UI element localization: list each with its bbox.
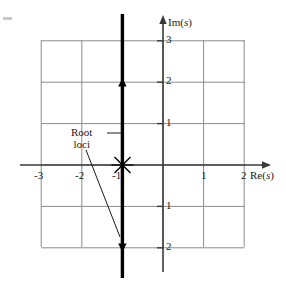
x-tick-label--2: -2 (75, 170, 84, 181)
annotation-root-loci-line1: Root (71, 127, 92, 139)
plot-canvas (0, 0, 286, 292)
y-tick-label-3: 3 (166, 34, 172, 45)
imag-axis-label: Im(s) (168, 17, 192, 28)
real-axis-arrowhead (262, 161, 271, 168)
y-tick-label--2: 2 (166, 241, 172, 252)
root-locus-figure: Im(s) Re(s) -3 -2 -1 1 2 3 2 1 1 2 Root … (0, 0, 286, 292)
axes (20, 15, 271, 272)
y-tick-label--1: 1 (166, 200, 172, 211)
imag-axis-ticks (157, 41, 163, 248)
imag-axis-arrowhead (159, 15, 166, 24)
annotation-leader-root-loci (86, 150, 120, 237)
y-tick-label-2: 2 (166, 75, 172, 86)
y-tick-label-1: 1 (166, 117, 172, 128)
real-axis-label: Re(s) (250, 170, 274, 181)
x-tick-label--1: -1 (112, 170, 121, 181)
x-tick-label-2: 2 (241, 170, 247, 181)
annotation-root-loci: Root loci (71, 127, 92, 150)
x-tick-label--3: -3 (34, 170, 43, 181)
x-tick-label-1: 1 (201, 170, 207, 181)
annotation-root-loci-line2: loci (71, 139, 92, 151)
scan-artifact (3, 17, 12, 20)
